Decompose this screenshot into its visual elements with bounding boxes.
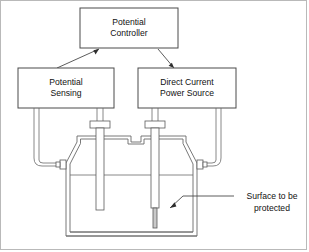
lead-sensing-left	[34, 108, 57, 166]
lead-sensing-right	[97, 108, 103, 121]
annotation-surface-to-be-protected: Surface to be protected	[236, 191, 308, 214]
left-electrode	[90, 121, 110, 210]
right-electrode	[145, 121, 165, 228]
vessel-outline	[66, 136, 197, 236]
surface-leader-line	[170, 196, 234, 208]
lead-power-right	[205, 108, 221, 166]
box-potential-controller-line1: Potential	[112, 17, 145, 29]
vessel-base	[66, 232, 197, 236]
box-direct-current-power-source[interactable]: Direct Current Power Source	[138, 68, 236, 108]
connector-sensing-to-controller	[57, 49, 99, 68]
annotation-surface-line2: protected	[236, 203, 308, 215]
box-potential-sensing-line1: Potential	[49, 77, 82, 89]
right-side-port	[197, 160, 207, 169]
box-power-source-line1: Direct Current	[160, 77, 213, 89]
diagram-canvas: Potential Controller Potential Sensing D…	[0, 0, 309, 252]
box-power-source-line2: Power Source	[160, 88, 214, 100]
annotation-surface-line1: Surface to be	[236, 191, 308, 203]
connector-controller-to-power-source	[158, 49, 174, 68]
box-potential-sensing-line2: Sensing	[50, 88, 81, 100]
box-potential-controller-line2: Controller	[110, 28, 147, 40]
box-potential-controller[interactable]: Potential Controller	[80, 8, 178, 48]
box-potential-sensing[interactable]: Potential Sensing	[18, 68, 114, 108]
lead-power-left	[152, 108, 158, 121]
left-side-port	[56, 160, 66, 169]
